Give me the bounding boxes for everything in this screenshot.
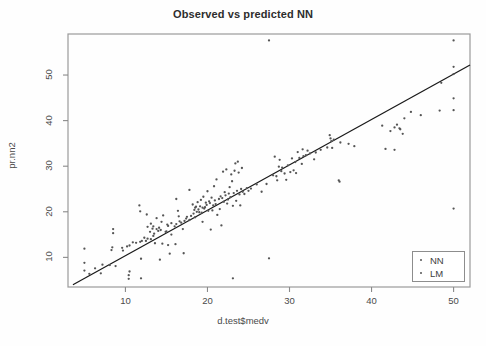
data-point (174, 225, 176, 227)
data-point (111, 246, 113, 248)
data-point (157, 230, 159, 232)
data-point (246, 187, 248, 189)
data-point (169, 253, 171, 255)
data-point (301, 148, 303, 150)
data-point (452, 73, 454, 75)
data-point (211, 209, 213, 211)
data-point (83, 269, 85, 271)
data-point (420, 114, 422, 116)
data-point (110, 249, 112, 251)
data-point (199, 205, 201, 207)
data-point (225, 168, 227, 170)
data-point (226, 202, 228, 204)
data-point (170, 222, 172, 224)
data-point (196, 201, 198, 203)
data-point (146, 213, 148, 215)
data-point (309, 152, 311, 154)
data-point (112, 228, 114, 230)
data-point (158, 227, 160, 229)
data-point (232, 277, 234, 279)
plot-frame (68, 34, 470, 287)
y-tick-label: 30 (43, 156, 54, 176)
data-point (331, 147, 333, 149)
data-point (197, 208, 199, 210)
data-point (135, 242, 137, 244)
data-point (250, 187, 252, 189)
data-point (231, 180, 233, 182)
data-point (174, 243, 176, 245)
data-point (188, 189, 190, 191)
data-point (210, 197, 212, 199)
data-point (210, 228, 212, 230)
data-point (452, 207, 454, 209)
data-point (94, 267, 96, 269)
x-tick-label: 20 (194, 295, 220, 306)
data-point (128, 270, 130, 272)
data-point (180, 222, 182, 224)
data-point (150, 222, 152, 224)
data-point (153, 233, 155, 235)
data-point (152, 235, 154, 237)
data-point (228, 192, 230, 194)
legend-item-nn[interactable]: NN (413, 254, 464, 267)
data-point (326, 146, 328, 148)
data-point (294, 161, 296, 163)
data-point (121, 247, 123, 249)
data-point (235, 200, 237, 202)
data-point (88, 273, 90, 275)
data-point (165, 230, 167, 232)
plot-area (0, 0, 486, 346)
data-point (285, 179, 287, 181)
data-point (159, 258, 161, 260)
data-point (243, 193, 245, 195)
data-point (229, 196, 231, 198)
data-point (193, 209, 195, 211)
data-point (101, 264, 103, 266)
y-tick-label: 10 (43, 247, 54, 267)
data-point (213, 185, 215, 187)
data-point (190, 215, 192, 217)
data-point (305, 154, 307, 156)
data-point (452, 97, 454, 99)
data-point (223, 201, 225, 203)
data-point (353, 145, 355, 147)
data-point (301, 163, 303, 165)
data-point (224, 194, 226, 196)
data-point (205, 202, 207, 204)
data-point (265, 183, 267, 185)
data-point (239, 204, 241, 206)
data-point (384, 148, 386, 150)
data-point (313, 158, 315, 160)
legend[interactable]: NN LM (412, 251, 465, 282)
series-nn (83, 39, 454, 280)
data-point (452, 66, 454, 68)
data-point (195, 206, 197, 208)
data-point (139, 210, 141, 212)
legend-item-lm[interactable]: LM (413, 267, 464, 280)
data-point (100, 272, 102, 274)
data-point (192, 203, 194, 205)
data-point (160, 221, 162, 223)
data-point (236, 190, 238, 192)
data-point (237, 160, 239, 162)
x-tick-label: 50 (441, 295, 467, 306)
data-point (140, 277, 142, 279)
data-point (216, 214, 218, 216)
data-point (138, 204, 140, 206)
data-point (83, 262, 85, 264)
data-point (145, 240, 147, 242)
legend-marker-lm-icon (418, 270, 425, 277)
data-point (209, 202, 211, 204)
data-point (128, 278, 130, 280)
data-point (278, 166, 280, 168)
data-point (230, 173, 232, 175)
data-point (112, 232, 114, 234)
data-point (452, 39, 454, 41)
data-point (146, 238, 148, 240)
data-point (306, 150, 308, 152)
data-point (233, 170, 235, 172)
data-point (315, 151, 317, 153)
data-point (162, 214, 164, 216)
data-point (215, 203, 217, 205)
x-tick-label: 10 (112, 295, 138, 306)
